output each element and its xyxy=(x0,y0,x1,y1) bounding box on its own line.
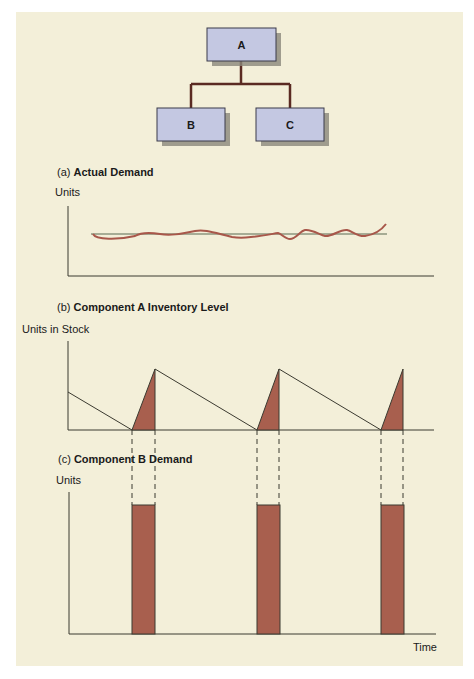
hierarchy-diagram: A B C xyxy=(157,28,329,146)
replenishment-triangle xyxy=(132,369,155,430)
figure-svg: A B C (a) Actual Demand Units (b) Compon… xyxy=(0,0,474,679)
chart-c-ylabel: Units xyxy=(56,474,82,486)
chart-c-xlabel: Time xyxy=(413,641,437,653)
box-c: C xyxy=(256,108,329,146)
chart-c-title: (c) Component B Demand xyxy=(58,453,192,465)
chart-a-actual-demand: (a) Actual Demand Units xyxy=(55,166,434,276)
chart-a-demand-curve xyxy=(93,224,386,239)
chart-b-inventory-level: (b) Component A Inventory Level Units in… xyxy=(22,301,434,430)
chart-c-component-b-demand: (c) Component B Demand Units Time xyxy=(56,453,437,653)
demand-bar xyxy=(257,505,280,634)
box-c-label: C xyxy=(286,119,294,131)
chart-a-ylabel: Units xyxy=(55,186,81,198)
dashed-guides xyxy=(132,430,403,505)
box-a: A xyxy=(207,28,281,66)
chart-b-title: (b) Component A Inventory Level xyxy=(57,301,229,313)
replenishment-triangle xyxy=(381,369,403,430)
replenishment-triangle xyxy=(257,369,279,430)
box-b: B xyxy=(157,108,230,146)
box-a-label: A xyxy=(238,39,246,51)
connector-lines xyxy=(191,61,290,108)
chart-b-ylabel: Units in Stock xyxy=(22,323,90,335)
chart-a-title: (a) Actual Demand xyxy=(57,166,154,178)
demand-bar xyxy=(132,505,155,634)
inventory-depletion-line xyxy=(279,369,381,430)
box-b-label: B xyxy=(187,119,195,131)
inventory-depletion-line xyxy=(155,369,257,430)
demand-bar xyxy=(381,505,404,634)
inventory-depletion-line xyxy=(68,392,132,430)
